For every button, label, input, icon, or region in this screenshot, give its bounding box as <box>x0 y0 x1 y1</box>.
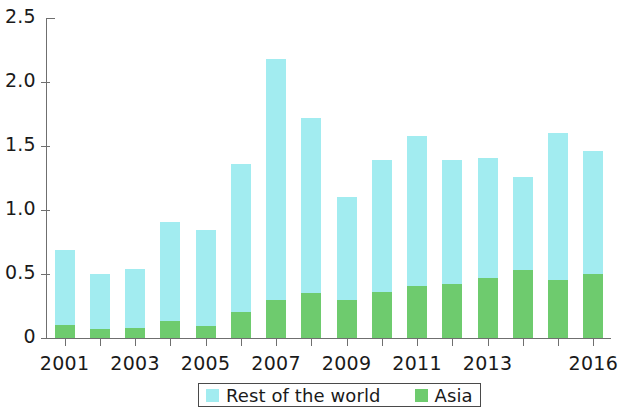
x-axis-tick-label: 2003 <box>95 352 175 374</box>
bar-segment-rest-of-the-world <box>266 59 286 300</box>
bar-segment-rest-of-the-world <box>160 222 180 322</box>
x-axis-tick-label: 2011 <box>377 352 457 374</box>
y-axis-tick-label: 1.5 <box>5 133 36 155</box>
bar-2008 <box>301 118 321 338</box>
bar-segment-rest-of-the-world <box>548 133 568 280</box>
bar-segment-asia <box>160 321 180 338</box>
bar-2001 <box>55 250 75 338</box>
bar-segment-asia <box>478 278 498 338</box>
legend-swatch-asia <box>415 389 428 402</box>
x-axis-tick <box>382 339 383 346</box>
x-axis-tick <box>311 339 312 346</box>
x-axis-tick-label: 2005 <box>166 352 246 374</box>
legend-item-asia: Asia <box>415 385 473 406</box>
bar-2009 <box>337 197 357 338</box>
x-axis-tick <box>276 339 277 346</box>
bar-segment-rest-of-the-world <box>407 136 427 286</box>
y-axis-tick-label: 1.0 <box>5 197 36 219</box>
legend-item-rest-of-the-world: Rest of the world <box>206 385 381 406</box>
chart-legend: Rest of the world Asia <box>198 383 481 407</box>
bar-segment-rest-of-the-world <box>478 158 498 278</box>
x-axis-tick <box>241 339 242 346</box>
bars-layer <box>47 18 611 338</box>
x-axis-tick <box>65 339 66 346</box>
x-axis-tick-label: 2016 <box>553 352 619 374</box>
bar-2014 <box>513 177 533 338</box>
bar-segment-asia <box>301 293 321 338</box>
bar-segment-rest-of-the-world <box>125 269 145 328</box>
bar-segment-rest-of-the-world <box>372 160 392 292</box>
y-axis-tick-label: 2.5 <box>5 5 36 27</box>
x-axis-tick <box>347 339 348 346</box>
bar-2012 <box>442 160 462 338</box>
x-axis-tick-label: 2009 <box>307 352 387 374</box>
x-axis-tick <box>206 339 207 346</box>
bar-segment-asia <box>407 286 427 338</box>
x-axis-tick-label: 2007 <box>236 352 316 374</box>
bar-segment-asia <box>231 312 251 338</box>
y-axis-tick-label: 0.5 <box>5 261 36 283</box>
legend-label-asia: Asia <box>435 385 473 406</box>
y-axis-tick <box>41 338 50 339</box>
bar-segment-asia <box>513 270 533 338</box>
bar-segment-asia <box>583 274 603 338</box>
y-axis-tick-label: 2.0 <box>5 69 36 91</box>
bar-segment-rest-of-the-world <box>337 197 357 299</box>
bar-segment-rest-of-the-world <box>90 274 110 329</box>
bar-segment-asia <box>125 328 145 338</box>
bar-segment-asia <box>55 325 75 338</box>
x-axis-tick <box>417 339 418 346</box>
bar-segment-rest-of-the-world <box>442 160 462 284</box>
x-axis-tick <box>100 339 101 346</box>
x-axis-tick <box>523 339 524 346</box>
bar-segment-asia <box>548 280 568 338</box>
x-axis-tick <box>135 339 136 346</box>
bar-segment-rest-of-the-world <box>513 177 533 270</box>
x-axis-tick <box>593 339 594 346</box>
bar-2002 <box>90 274 110 338</box>
bar-segment-rest-of-the-world <box>301 118 321 293</box>
bar-segment-asia <box>372 292 392 338</box>
x-axis-line <box>46 338 611 339</box>
x-axis-tick-label: 2013 <box>448 352 528 374</box>
bar-2011 <box>407 136 427 338</box>
stacked-bar-chart: 00.51.01.52.02.5 20012003200520072009201… <box>0 0 619 411</box>
bar-segment-rest-of-the-world <box>55 250 75 326</box>
bar-2006 <box>231 164 251 338</box>
bar-2004 <box>160 222 180 338</box>
legend-swatch-rest-of-the-world <box>206 389 219 402</box>
x-axis-tick <box>558 339 559 346</box>
bar-segment-asia <box>196 326 216 338</box>
y-axis-tick-label: 0 <box>24 325 36 347</box>
bar-segment-rest-of-the-world <box>583 151 603 274</box>
x-axis-tick <box>170 339 171 346</box>
bar-segment-asia <box>266 300 286 338</box>
bar-2015 <box>548 133 568 338</box>
bar-2007 <box>266 59 286 338</box>
x-axis-tick-label: 2001 <box>25 352 105 374</box>
bar-segment-rest-of-the-world <box>231 164 251 312</box>
x-axis-tick <box>488 339 489 346</box>
legend-label-rest-of-the-world: Rest of the world <box>226 385 381 406</box>
bar-2003 <box>125 269 145 338</box>
bar-segment-asia <box>90 329 110 338</box>
bar-2005 <box>196 230 216 338</box>
bar-2010 <box>372 160 392 338</box>
bar-segment-asia <box>337 300 357 338</box>
bar-2016 <box>583 151 603 338</box>
bar-2013 <box>478 158 498 338</box>
x-axis-tick <box>452 339 453 346</box>
bar-segment-asia <box>442 284 462 338</box>
bar-segment-rest-of-the-world <box>196 230 216 326</box>
